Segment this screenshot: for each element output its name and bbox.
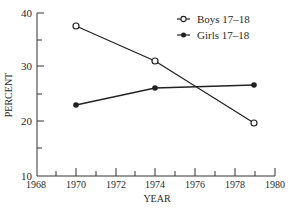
open-circle-icon: [181, 16, 186, 21]
x-tick-label: 1968: [26, 179, 46, 190]
y-tick-label: 40: [21, 7, 33, 19]
y-ticks: [37, 13, 44, 148]
y-tick-label: 30: [21, 60, 33, 72]
y-axis-label: PERCENT: [3, 73, 14, 117]
x-ticks: [56, 168, 275, 176]
x-tick-label: 1974: [145, 179, 165, 190]
y-tick-label: 20: [21, 115, 33, 127]
x-axis-label: YEAR: [143, 193, 171, 204]
girls-line: [76, 85, 254, 105]
x-tick-label: 1976: [185, 179, 205, 190]
legend-girls-label: Girls 17–18: [197, 29, 250, 41]
x-tick-label: 1972: [106, 179, 126, 190]
boys-point-1974: [152, 58, 158, 64]
girls-point-1974: [152, 85, 158, 91]
filled-circle-icon: [181, 33, 186, 38]
girls-point-1979: [251, 82, 257, 88]
x-tick-label: 1970: [66, 179, 86, 190]
boys-point-1979: [251, 120, 257, 126]
x-tick-label: 1978: [225, 179, 245, 190]
girls-point-1970: [73, 102, 79, 108]
legend-boys-label: Boys 17–18: [197, 13, 250, 25]
x-tick-label: 1980: [265, 179, 285, 190]
legend: Boys 17–18 Girls 17–18: [177, 13, 250, 41]
line-chart: 40 30 20 10 1968 1970 1972 1974 1976 197…: [0, 0, 290, 210]
boys-point-1970: [73, 23, 79, 29]
